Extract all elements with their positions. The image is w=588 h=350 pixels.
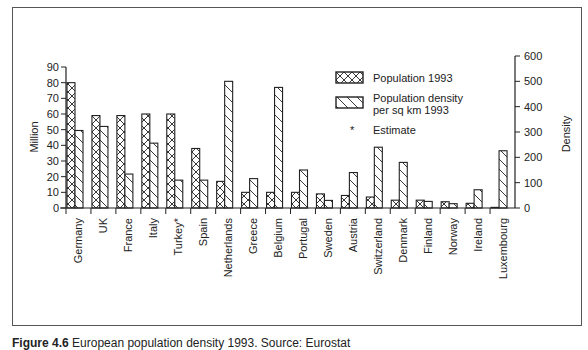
category-label: Belgium [272,218,284,258]
density-bar [200,180,208,208]
figure-label: Figure 4.6 [12,336,69,350]
category-label: Switzerland [372,218,384,275]
category-label: Greece [247,218,259,254]
right-y-axis: 0100200300400500600 [515,50,542,214]
density-bar [324,200,332,208]
density-bar [175,180,183,208]
left-y-axis: 0102030405060708090 [47,61,66,214]
density-bar [250,179,258,208]
left-tick-label: 10 [47,186,59,198]
legend-label-density: Population density [373,92,463,104]
population-bar [117,116,125,208]
left-tick-label: 90 [47,61,59,73]
population-bar [242,192,250,208]
population-bar [92,116,100,208]
category-label: Ireland [472,218,484,252]
right-tick-label: 0 [524,202,530,214]
density-bar [474,190,482,208]
category-label: Sweden [322,218,334,258]
density-bar [499,151,507,208]
right-tick-label: 400 [524,101,542,113]
category-label: Italy [147,218,159,239]
figure-caption: Figure 4.6 European population density 1… [12,336,350,350]
left-tick-label: 50 [47,124,59,136]
left-tick-label: 20 [47,171,59,183]
category-label: Denmark [397,218,409,263]
legend-swatch-population [336,72,363,83]
density-bar [75,130,83,208]
right-tick-label: 500 [524,75,542,87]
legend: Population 1993Population densityper sq … [336,72,463,136]
density-bar [374,147,382,208]
category-label: France [122,218,134,252]
population-bar [341,195,349,208]
density-bar [150,143,158,208]
density-bar [125,174,133,208]
left-tick-label: 0 [53,202,59,214]
category-label: Turkey* [172,217,184,255]
left-tick-label: 30 [47,155,59,167]
left-tick-label: 80 [47,77,59,89]
density-bar [424,201,432,208]
population-bar [316,194,324,208]
population-bar [366,197,374,208]
population-bar [192,148,200,208]
right-tick-label: 200 [524,151,542,163]
category-label: Finland [422,218,434,254]
legend-label-population: Population 1993 [373,72,453,84]
population-bar [67,83,75,208]
y-axis-label-left: Million [28,121,40,152]
right-tick-label: 600 [524,50,542,62]
category-label: Spain [197,218,209,246]
density-bar [275,87,283,208]
density-bar [100,126,108,208]
legend-label-density-line2: per sq km 1993 [373,104,449,116]
population-bar [217,181,225,208]
density-bar [225,81,233,208]
category-label: Germany [72,218,84,264]
category-label: Austria [347,217,359,252]
population-bar [292,192,300,208]
y-axis-label-right: Density [560,115,572,152]
category-label: UK [97,217,109,233]
population-bar [391,200,399,208]
bar-chart: 0102030405060708090 0100200300400500600 … [0,0,588,330]
category-label: Portugal [297,218,309,259]
legend-label-estimate: Estimate [373,124,416,136]
density-bar [399,162,407,208]
population-bar [416,200,424,208]
right-tick-label: 100 [524,177,542,189]
density-bar [349,173,357,208]
density-bar [449,204,457,208]
population-bar [142,114,150,208]
population-bar [167,114,175,208]
legend-swatch-density [336,97,363,108]
category-label: Netherlands [222,218,234,278]
population-bar [267,192,275,208]
asterisk-icon: * [350,124,355,136]
left-tick-label: 70 [47,92,59,104]
left-tick-label: 40 [47,139,59,151]
population-bar [466,203,474,208]
x-axis: GermanyUKFranceItalyTurkey*SpainNetherla… [60,208,515,279]
left-tick-label: 60 [47,108,59,120]
category-label: Luxembourg [497,218,509,279]
category-label: Norway [447,218,459,256]
caption-text: European population density 1993. Source… [72,336,350,350]
density-bar [300,170,308,208]
right-tick-label: 300 [524,126,542,138]
population-bar [441,202,449,208]
